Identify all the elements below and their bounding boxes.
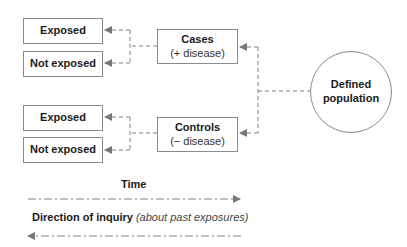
controls-exposed-box: Exposed (23, 105, 103, 131)
box-label: Exposed (40, 24, 86, 37)
controls-title: Controls (175, 121, 220, 134)
box-label: Not exposed (30, 57, 96, 70)
controls-subtitle: (− disease) (170, 135, 225, 148)
controls-not-exposed-box: Not exposed (23, 137, 103, 163)
time-label-text: Time (121, 178, 146, 190)
cases-not-exposed-box: Not exposed (23, 51, 103, 77)
population-line2: population (323, 92, 379, 106)
cases-box: Cases (+ disease) (157, 29, 238, 64)
inquiry-label-text: Direction of inquiry (32, 211, 133, 223)
cases-title: Cases (181, 33, 213, 46)
box-label: Exposed (40, 111, 86, 124)
inquiry-label: Direction of inquiry (about past exposur… (32, 211, 248, 223)
inquiry-note: (about past exposures) (136, 211, 249, 223)
cases-exposed-box: Exposed (23, 18, 103, 44)
box-label: Not exposed (30, 143, 96, 156)
population-line1: Defined (323, 78, 379, 92)
time-label: Time (121, 178, 146, 190)
defined-population-circle: Defined population (310, 51, 392, 133)
controls-box: Controls (− disease) (157, 117, 238, 152)
cases-subtitle: (+ disease) (170, 47, 225, 60)
